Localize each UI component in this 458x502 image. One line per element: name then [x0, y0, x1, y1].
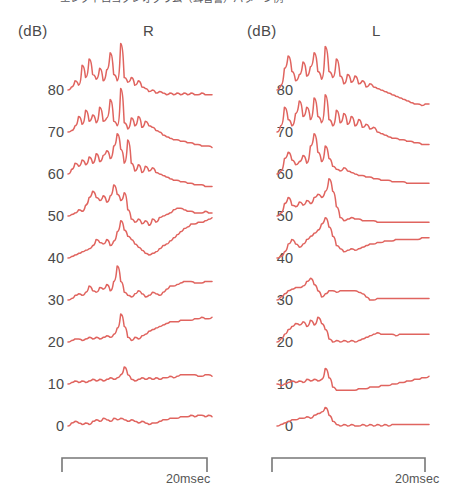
trace-area-right: [0, 0, 229, 502]
waveform-trace: [277, 95, 429, 145]
abr-waveform-figure: エレクトロコクレオグラム（耳音響）パターン例 (dB) R 80 70 60 5…: [0, 0, 458, 502]
waveform-trace: [277, 47, 429, 106]
waveform-trace: [277, 218, 429, 258]
waveform-trace: [277, 407, 429, 426]
trace-area-left: [229, 0, 458, 502]
panel-right-ear: (dB) R 80 70 60 50 40 30 20 10 0 20msec: [0, 0, 229, 502]
scale-caption-right: 20msec: [166, 472, 210, 486]
waveform-trace: [277, 369, 429, 391]
waveform-trace: [68, 185, 212, 225]
waveform-trace: [68, 218, 212, 258]
panel-left-ear: (dB) L 80 70 60 50 40 30 20 10 0 20msec: [229, 0, 458, 502]
waveform-trace: [68, 89, 212, 148]
waveform-trace: [68, 415, 212, 426]
waveform-trace: [68, 314, 212, 342]
waveform-trace: [68, 266, 212, 300]
waveform-trace: [277, 179, 429, 222]
waveform-traces-left: [229, 0, 458, 502]
waveform-trace: [68, 44, 212, 95]
scale-caption-left: 20msec: [395, 472, 439, 486]
waveform-trace: [277, 278, 429, 300]
waveform-traces-right: [0, 0, 229, 502]
waveform-trace: [277, 317, 429, 342]
waveform-trace: [68, 134, 212, 187]
waveform-trace: [68, 367, 212, 384]
